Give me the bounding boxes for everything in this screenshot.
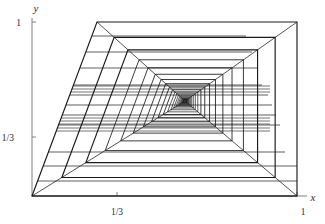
x-tick-label-1-3: 1/3 <box>111 207 123 217</box>
x-axis-label: x <box>310 191 316 203</box>
orbit-plot: 1/3111/3xy <box>0 0 325 224</box>
axis-labels-group: 1/3111/3xy <box>2 2 316 217</box>
y-tick-label-1: 1 <box>16 18 21 28</box>
x-tick-label-1: 1 <box>301 207 306 217</box>
nested-rectangles-group <box>32 22 297 196</box>
figure-container: 1/3111/3xy <box>0 0 325 224</box>
y-axis-label: y <box>33 2 39 14</box>
y-tick-label-1-3: 1/3 <box>2 133 14 143</box>
